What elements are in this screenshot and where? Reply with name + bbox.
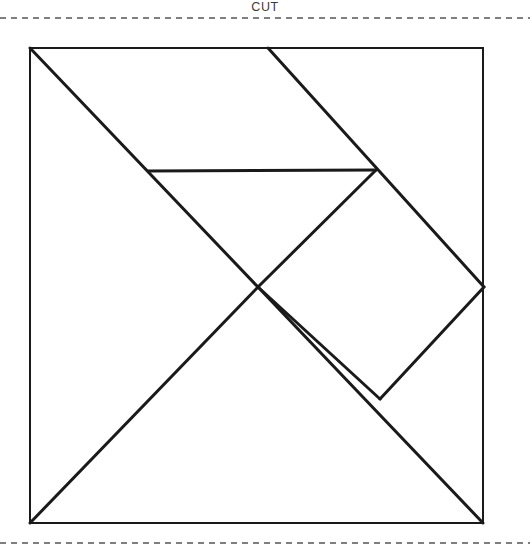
- lower-left-diagonal: [30, 287, 258, 523]
- tangram-template-page: CUT: [0, 0, 530, 550]
- right-lower-diagonal: [380, 287, 484, 399]
- small-triangle-cut: [258, 170, 376, 287]
- horizontal-cut: [148, 170, 376, 171]
- parallelogram-cut: [258, 287, 380, 399]
- tangram-cut-lines: [30, 48, 484, 523]
- tangram-figure: [0, 0, 530, 550]
- upper-right-diagonal: [268, 48, 484, 287]
